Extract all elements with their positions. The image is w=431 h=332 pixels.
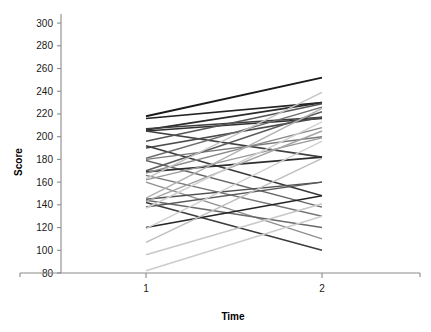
y-tick-label: 280 [36,40,53,51]
y-tick-label: 100 [36,245,53,256]
parallel-coordinates-chart: 80100120140160180200220240260280300 12 S… [0,0,431,332]
y-tick-label: 240 [36,86,53,97]
y-tick-label: 120 [36,222,53,233]
y-tick-label: 140 [36,199,53,210]
y-tick-label: 220 [36,108,53,119]
x-axis-title: Time [221,311,245,322]
x-tick-label: 2 [319,283,325,294]
y-tick-label: 300 [36,18,53,29]
x-tick-label: 1 [143,283,149,294]
y-tick-label: 200 [36,131,53,142]
y-tick-label: 160 [36,177,53,188]
y-axis-title: Score [13,148,24,176]
y-tick-label: 260 [36,63,53,74]
y-tick-label: 180 [36,154,53,165]
